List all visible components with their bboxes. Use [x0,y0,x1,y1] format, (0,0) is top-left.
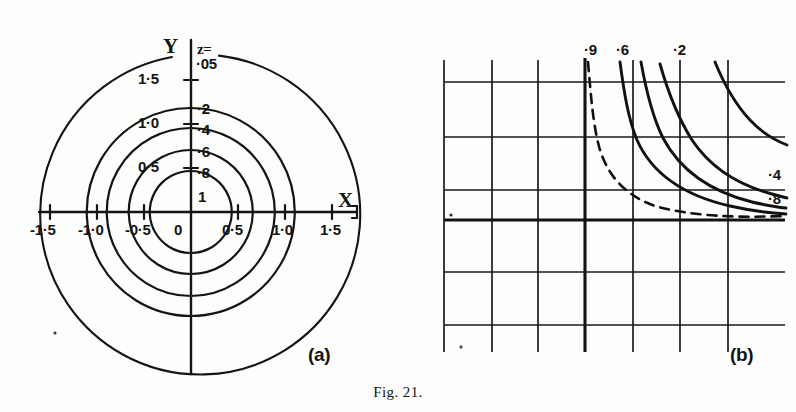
figure-caption: Fig. 21. [0,384,796,401]
panel-b-curve-label-8: ·8 [768,191,781,206]
scan-speck-3 [53,331,56,334]
panel-b-curve-label-4: ·4 [768,167,781,182]
panel-b-curve-label-9: ·9 [584,42,597,57]
panel-b-curve-8 [641,62,786,208]
panel-b-graphic [0,0,796,412]
scan-speck-2 [459,345,462,348]
panel-b-curve-9 [588,62,783,217]
panel-b-curve-label-2: ·2 [673,42,686,57]
panel-b-curve-2 [715,62,787,145]
figure-caption-text: Fig. 21. [373,384,422,400]
panel-b-curve-label-6: ·6 [616,42,629,57]
panel-b-label: (b) [730,345,753,364]
scan-speck-1 [449,213,452,216]
figure-21: Y X z= ·05 ·2 ·4 ·6 ·8 1 1·5 1·0 0·5 -1·… [0,0,796,412]
